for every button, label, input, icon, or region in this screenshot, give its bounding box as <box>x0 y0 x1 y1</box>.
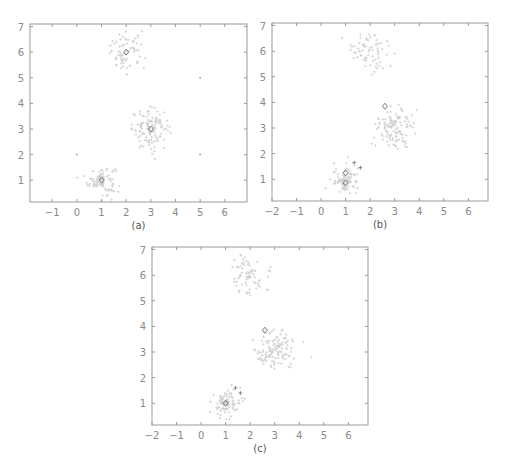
y-tick-label: 3 <box>140 347 146 358</box>
scatter-plot-c: −2−101234561234567 <box>0 0 507 471</box>
y-tick-label: 1 <box>140 398 146 409</box>
x-tick-label: −2 <box>145 430 160 441</box>
caption-c: (c) <box>253 443 266 454</box>
x-tick-label: 2 <box>247 430 253 441</box>
y-tick-label: 2 <box>140 373 146 384</box>
y-tick-label: 4 <box>140 321 146 332</box>
plus-marker-icon <box>238 391 242 395</box>
x-tick-label: 1 <box>222 430 228 441</box>
diamond-marker-icon <box>262 327 267 333</box>
x-tick-label: 4 <box>296 430 302 441</box>
axes-frame <box>152 247 368 425</box>
y-tick-label: 5 <box>140 296 146 307</box>
x-tick-label: 6 <box>345 430 351 441</box>
y-tick-label: 7 <box>140 245 146 256</box>
y-tick-label: 6 <box>140 270 146 281</box>
x-tick-label: 5 <box>321 430 327 441</box>
x-tick-label: 3 <box>272 430 278 441</box>
x-tick-label: 0 <box>198 430 204 441</box>
data-points <box>209 254 312 421</box>
x-tick-label: −1 <box>169 430 184 441</box>
